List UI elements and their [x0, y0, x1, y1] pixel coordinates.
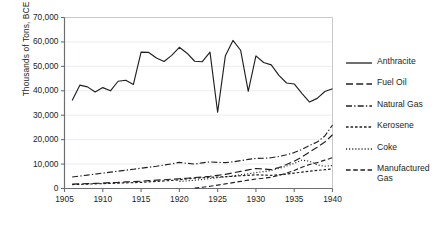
legend-item-kerosene[interactable]: Kerosene	[346, 120, 441, 132]
x-tick-label: 1915	[124, 194, 158, 204]
series-line-fuel-oil	[72, 135, 332, 184]
legend-item-manufactured-gas[interactable]: Manufactured Gas	[346, 163, 441, 183]
gridlines	[65, 42, 333, 189]
legend-key-natural-gas	[346, 101, 372, 111]
series-line-anthracite	[72, 40, 332, 112]
series-line-natural-gas	[72, 125, 332, 177]
x-tick-label: 1930	[239, 194, 273, 204]
legend-item-fuel-oil[interactable]: Fuel Oil	[346, 77, 441, 89]
y-tick-label: 10,000	[0, 159, 59, 169]
x-tick-label: 1935	[277, 194, 311, 204]
legend-key-kerosene	[346, 122, 372, 132]
x-tick-label: 1940	[316, 194, 350, 204]
chart-figure: Thousands of Tons, BCE 010,00020,00030,0…	[0, 0, 441, 225]
y-tick-label: 50,000	[0, 61, 59, 71]
y-tick-label: 70,000	[0, 12, 59, 22]
legend-key-manufactured-gas	[346, 165, 372, 175]
axis-ticks	[61, 18, 333, 193]
axis-lines	[65, 18, 333, 189]
y-tick-label: 30,000	[0, 110, 59, 120]
x-tick-label: 1920	[162, 194, 196, 204]
legend-label: Kerosene	[377, 120, 414, 130]
legend-key-anthracite	[346, 58, 372, 68]
legend-key-coke	[346, 144, 372, 154]
legend-label: Manufactured Gas	[377, 163, 441, 183]
legend-item-anthracite[interactable]: Anthracite	[346, 56, 441, 68]
y-tick-label: 40,000	[0, 85, 59, 95]
series-line-kerosene	[72, 169, 332, 185]
legend-key-fuel-oil	[346, 79, 372, 89]
y-tick-label: 20,000	[0, 134, 59, 144]
y-tick-label: 0	[0, 183, 59, 193]
legend-label: Coke	[377, 142, 397, 152]
x-tick-label: 1905	[48, 194, 82, 204]
legend-label: Anthracite	[377, 56, 416, 66]
x-tick-label: 1925	[201, 194, 235, 204]
x-tick-label: 1910	[86, 194, 120, 204]
legend-item-coke[interactable]: Coke	[346, 142, 441, 154]
legend-label: Natural Gas	[377, 99, 423, 109]
data-series-layer	[72, 40, 332, 188]
y-tick-label: 60,000	[0, 36, 59, 46]
chart-legend: AnthraciteFuel OilNatural GasKeroseneCok…	[346, 56, 441, 193]
legend-item-natural-gas[interactable]: Natural Gas	[346, 99, 441, 111]
legend-label: Fuel Oil	[377, 77, 407, 87]
